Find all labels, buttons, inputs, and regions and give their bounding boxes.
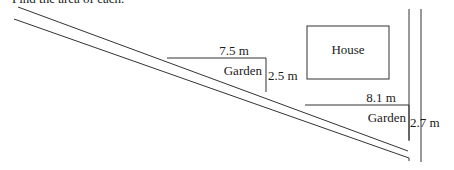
- garden-1-height-label: 2.5 m: [268, 68, 298, 83]
- garden-2-height-label: 2.7 m: [410, 115, 440, 130]
- garden-1: 7.5 m Garden 2.5 m: [167, 43, 298, 92]
- garden-1-width-label: 7.5 m: [219, 43, 249, 58]
- garden-diagram: Find the area of each. House 7.5 m Garde…: [0, 0, 454, 170]
- garden-2-label: Garden: [368, 110, 407, 125]
- instruction-text: Find the area of each.: [12, 0, 124, 6]
- garden-1-label: Garden: [224, 63, 263, 78]
- road-lower-edge: [14, 19, 409, 158]
- garden-2: 8.1 m Garden 2.7 m: [305, 90, 440, 140]
- house-label: House: [331, 42, 364, 57]
- garden-2-width-label: 8.1 m: [366, 90, 396, 105]
